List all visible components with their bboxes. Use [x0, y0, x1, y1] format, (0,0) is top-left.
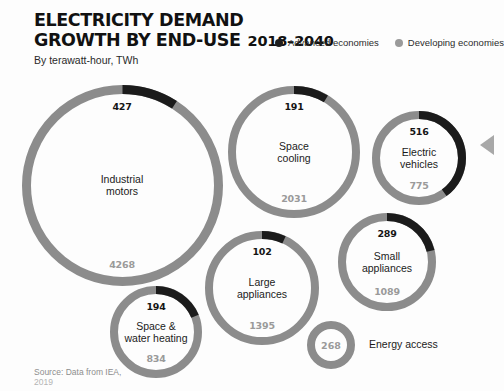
page-title-line2: GROWTH BY END-USE: [34, 30, 241, 50]
donut-ring: [108, 284, 204, 380]
donut-ring: [305, 319, 357, 371]
arc-developing: [26, 89, 218, 281]
donut-ring: [20, 83, 225, 288]
value-advanced: 516: [370, 126, 468, 137]
value-advanced: 289: [336, 228, 438, 239]
bubble-large-appliances: Largeappliances1021395: [203, 229, 321, 347]
legend-item-advanced: Advanced economies: [275, 37, 379, 48]
donut-ring: [336, 211, 438, 313]
value-advanced: 191: [226, 101, 362, 112]
source-line2: 2019: [34, 377, 121, 387]
legend-dot-icon: [275, 39, 283, 47]
donut-ring: [370, 109, 468, 207]
legend-label: Advanced economies: [288, 37, 379, 48]
page-title-line1: ELECTRICITY DEMAND: [34, 10, 334, 30]
bubble-industrial-motors: Industrialmotors4274268: [20, 83, 225, 288]
bubble-electric-vehicles: Electricvehicles516775: [370, 109, 468, 207]
bubble-space-water-heating: Space &water heating194834: [108, 284, 204, 380]
legend-item-developing: Developing economies: [395, 37, 504, 48]
value-advanced: 427: [20, 101, 225, 112]
bubble-label: Energy access: [369, 338, 438, 350]
next-slide-arrow[interactable]: [478, 133, 494, 161]
legend-label: Developing economies: [408, 37, 504, 48]
bubble-space-cooling: Spacecooling1912031: [226, 84, 362, 220]
chart-subtitle: By terawatt-hour, TWh: [34, 54, 334, 66]
value-developing: 1089: [336, 286, 438, 297]
value-developing: 775: [370, 180, 468, 191]
value-developing: 1395: [203, 320, 321, 331]
chevron-left-icon: [478, 133, 494, 157]
value-advanced: 102: [203, 246, 321, 257]
value-advanced: 194: [108, 301, 204, 312]
bubble-energy-access: 268Energy access: [305, 319, 357, 371]
source-note: Source: Data from IEA, 2019: [34, 367, 121, 387]
value-developing: 2031: [226, 193, 362, 204]
chart-legend: Advanced economiesDeveloping economies: [275, 37, 504, 48]
bubble-small-appliances: Smallappliances2891089: [336, 211, 438, 313]
value-developing: 4268: [20, 259, 225, 270]
value-developing: 834: [108, 353, 204, 364]
arc-developing: [311, 325, 351, 365]
legend-dot-icon: [395, 39, 403, 47]
source-line1: Source: Data from IEA,: [34, 367, 121, 377]
